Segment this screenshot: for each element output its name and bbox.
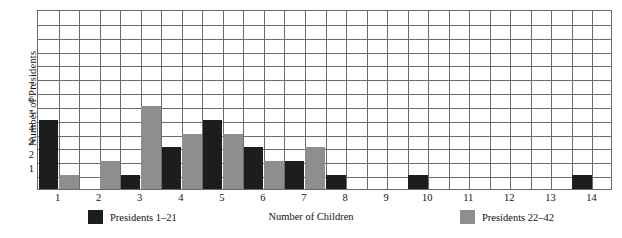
x-axis-tick-label: 6	[243, 192, 283, 203]
y-axis-tick-label: 3	[14, 137, 34, 147]
x-axis-tick-label: 7	[284, 192, 324, 203]
x-axis-tick-label: 12	[489, 192, 529, 203]
bar	[39, 120, 59, 189]
x-axis-tick-label: 10	[407, 192, 447, 203]
x-axis-tick-label: 4	[161, 192, 201, 203]
x-axis-tick-label: 9	[366, 192, 406, 203]
x-axis-tick-labels: 1234567891011121314	[37, 192, 612, 208]
bar	[100, 161, 120, 189]
plot-area	[37, 10, 612, 190]
x-axis-tick-label: 5	[202, 192, 242, 203]
legend-label: Presidents 1–21	[110, 212, 177, 223]
x-axis-tick-label: 11	[448, 192, 488, 203]
bar	[223, 134, 243, 189]
x-axis-tick-label: 14	[571, 192, 611, 203]
bar	[572, 175, 592, 189]
y-axis-tick-labels: 1234567	[14, 10, 34, 190]
bar	[141, 106, 161, 189]
legend-swatch-icon	[460, 210, 475, 224]
bar	[162, 147, 182, 189]
bar	[305, 147, 325, 189]
bar	[285, 161, 305, 189]
legend-item: Presidents 22–42	[460, 208, 554, 226]
y-axis-tick-label: 5	[14, 109, 34, 119]
x-axis-tick-label: 3	[120, 192, 160, 203]
bar	[182, 134, 202, 189]
bar	[203, 120, 223, 189]
x-axis-tick-label: 2	[79, 192, 119, 203]
y-axis-tick-label: 4	[14, 123, 34, 133]
chart-figure: Number of Presidents 1234567 12345678910…	[0, 0, 622, 238]
legend-swatch-icon	[88, 210, 103, 224]
legend-item: Presidents 1–21	[88, 208, 177, 226]
bar	[121, 175, 141, 189]
bar	[264, 161, 284, 189]
x-axis-tick-label: 8	[325, 192, 365, 203]
y-axis-tick-label: 7	[14, 81, 34, 91]
x-axis-tick-label: 1	[38, 192, 78, 203]
bar	[244, 147, 264, 189]
y-axis-tick-label: 2	[14, 150, 34, 160]
y-axis-tick-label: 6	[14, 95, 34, 105]
legend-label: Presidents 22–42	[482, 212, 554, 223]
x-axis-tick-label: 13	[530, 192, 570, 203]
bar-series-layer	[38, 11, 611, 189]
y-axis-tick-label: 1	[14, 164, 34, 174]
bar	[408, 175, 428, 189]
bar	[326, 175, 346, 189]
legend: Number of Children Presidents 1–21Presid…	[0, 208, 622, 232]
bar	[59, 175, 79, 189]
